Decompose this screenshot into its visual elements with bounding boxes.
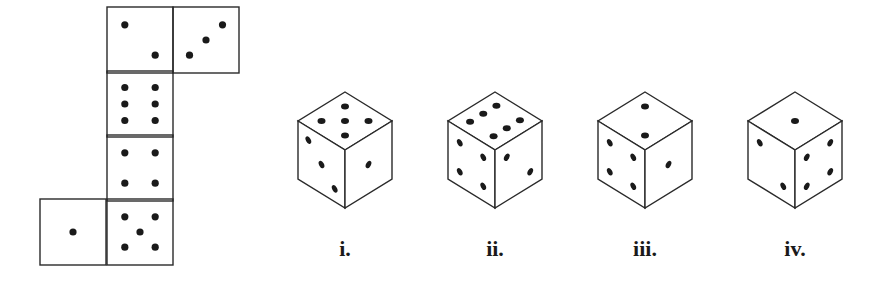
pip <box>503 125 511 131</box>
net-face-left <box>40 199 106 265</box>
pip <box>152 244 159 251</box>
option-label-ii: ii. <box>465 236 525 262</box>
pip <box>479 111 487 117</box>
pip <box>136 228 143 235</box>
pip <box>492 103 500 109</box>
pip <box>121 84 128 91</box>
pip <box>341 133 349 139</box>
pip <box>318 118 326 124</box>
pip <box>365 118 373 124</box>
pip <box>121 117 128 124</box>
option-label-iv: iv. <box>765 236 825 262</box>
pip <box>219 21 226 28</box>
pip <box>186 52 193 59</box>
net-face-col-2 <box>107 71 173 137</box>
pip <box>121 244 128 251</box>
pip <box>121 180 128 187</box>
net-face-top-right <box>173 7 239 73</box>
pip <box>466 119 474 125</box>
cube-option-3[interactable] <box>598 92 692 208</box>
pip <box>791 118 799 124</box>
pip <box>152 213 159 220</box>
net-face-top-left <box>107 7 173 73</box>
cube-option-1[interactable] <box>298 92 392 208</box>
pip <box>490 133 498 139</box>
pip <box>516 117 524 123</box>
pip <box>641 133 649 139</box>
pip <box>202 36 209 43</box>
net-face-col-4 <box>107 199 173 265</box>
pip <box>121 100 128 107</box>
dice-net <box>40 7 239 265</box>
pip <box>121 149 128 156</box>
pip <box>152 180 159 187</box>
pip <box>152 117 159 124</box>
option-label-iii: iii. <box>615 236 675 262</box>
pip <box>69 228 76 235</box>
pip <box>152 52 159 59</box>
cube-option-2[interactable] <box>448 92 542 208</box>
net-face-col-3 <box>107 135 173 201</box>
pip <box>152 149 159 156</box>
pip <box>152 84 159 91</box>
pip <box>121 21 128 28</box>
cube-options <box>298 92 842 208</box>
pip <box>152 100 159 107</box>
pip <box>341 118 349 124</box>
pip <box>121 213 128 220</box>
pip <box>341 104 349 110</box>
dice-diagram <box>0 0 892 281</box>
cube-option-4[interactable] <box>748 92 842 208</box>
pip <box>641 104 649 110</box>
option-label-i: i. <box>315 236 375 262</box>
